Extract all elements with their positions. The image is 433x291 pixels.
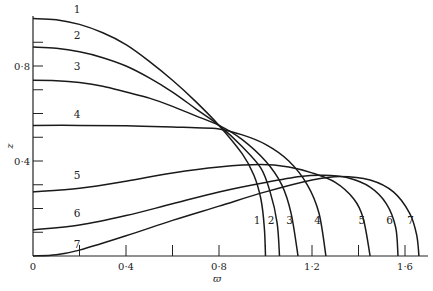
x-axis-label: ϖ <box>213 273 222 284</box>
curve-start-label-1: 1 <box>74 3 81 15</box>
y-tick-label: 0·8 <box>14 61 30 72</box>
x-tick-label: 0·8 <box>211 261 227 272</box>
curve-4 <box>33 125 326 256</box>
curve-end-label-5: 5 <box>358 214 365 226</box>
curve-3 <box>33 80 298 256</box>
curve-start-label-4: 4 <box>74 108 81 120</box>
curve-end-label-2: 2 <box>268 214 275 226</box>
x-tick-label: 1·6 <box>397 261 413 272</box>
labels: 00·40·81·21·60·40·8ϖz11223344556677 <box>4 3 414 284</box>
curve-start-label-6: 6 <box>74 207 81 219</box>
curve-end-label-7: 7 <box>407 214 414 226</box>
curve-start-label-5: 5 <box>74 169 81 181</box>
y-axis-label: z <box>4 143 15 150</box>
curve-start-label-7: 7 <box>74 238 81 250</box>
curve-end-label-4: 4 <box>314 214 321 226</box>
curve-end-label-3: 3 <box>286 214 293 226</box>
curve-2 <box>33 47 280 256</box>
x-tick-label: 0 <box>30 261 36 272</box>
y-tick-label: 0·4 <box>14 156 30 167</box>
x-tick-label: 1·2 <box>304 261 320 272</box>
curve-start-label-3: 3 <box>74 60 81 72</box>
curve-end-label-6: 6 <box>386 214 393 226</box>
curve-1 <box>33 19 266 257</box>
chart: 00·40·81·21·60·40·8ϖz11223344556677 <box>0 0 433 291</box>
curve-end-label-1: 1 <box>254 214 261 226</box>
curve-start-label-2: 2 <box>74 29 81 41</box>
x-tick-label: 0·4 <box>118 261 134 272</box>
